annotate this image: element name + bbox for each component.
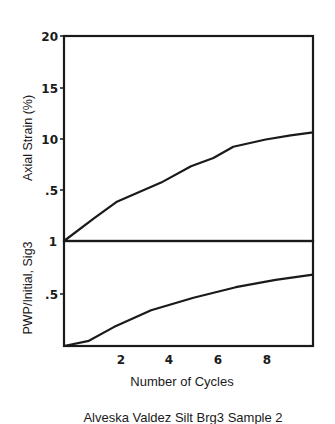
x-tick-6: 6 — [214, 353, 222, 367]
x-axis-label: Number of Cycles — [130, 374, 234, 389]
lower-y-ticks: 1 .5 — [45, 235, 64, 302]
pwp-ratio-curve — [64, 275, 313, 346]
upper-y-ticks: 20 15 10 .5 — [41, 30, 64, 198]
upper-tick-5: .5 — [45, 184, 58, 198]
x-tick-4: 4 — [165, 353, 173, 367]
upper-tick-20: 20 — [41, 30, 58, 44]
lower-y-axis-label: PWP/Initial, Sig3 — [21, 241, 35, 334]
x-tick-8: 8 — [263, 353, 271, 367]
upper-tick-10: 10 — [41, 133, 58, 147]
lower-tick-1: 1 — [49, 235, 57, 249]
x-tick-2: 2 — [117, 353, 125, 367]
x-ticks: 2 4 6 8 — [117, 353, 271, 367]
figure-caption: Alveska Valdez Silt Brg3 Sample 2 — [83, 410, 282, 424]
upper-y-axis-label: Axial Strain (%) — [21, 95, 35, 181]
upper-tick-15: 15 — [41, 82, 58, 96]
lower-plot-frame — [64, 241, 313, 346]
lower-tick-05: .5 — [45, 288, 58, 302]
axial-strain-curve — [64, 132, 313, 241]
figure: 20 15 10 .5 1 .5 2 4 6 8 Axial Strain (%… — [0, 0, 335, 424]
